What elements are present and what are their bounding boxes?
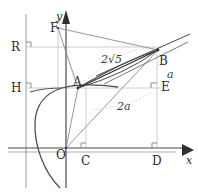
parabola-figure: y x F R H A B E O C D 2√5 a 2a	[0, 0, 198, 195]
point-label-D: D	[152, 155, 162, 167]
geometry-canvas	[0, 0, 198, 195]
dot-B	[157, 49, 160, 52]
right-angle-mark-R	[26, 42, 31, 47]
measure-label-two-a: 2a	[117, 101, 131, 112]
right-angle-mark-E	[151, 83, 157, 88]
point-label-H: H	[11, 82, 21, 94]
point-label-F: F	[50, 22, 58, 34]
right-angle-mark-D	[152, 143, 157, 148]
point-label-A: A	[73, 76, 82, 88]
measure-label-two-sqrt-five: 2√5	[101, 54, 122, 65]
point-label-B: B	[159, 55, 168, 67]
right-angle-mark-H	[26, 83, 31, 88]
right-angle-mark-C	[81, 143, 86, 148]
point-label-E: E	[161, 81, 170, 93]
point-label-O: O	[56, 149, 66, 161]
x-axis-label: x	[186, 155, 192, 166]
measure-label-a: a	[167, 69, 174, 80]
point-label-R: R	[11, 41, 20, 53]
segment-OA	[66, 88, 78, 148]
y-axis-arrowhead	[62, 10, 70, 24]
point-label-C: C	[81, 155, 90, 167]
